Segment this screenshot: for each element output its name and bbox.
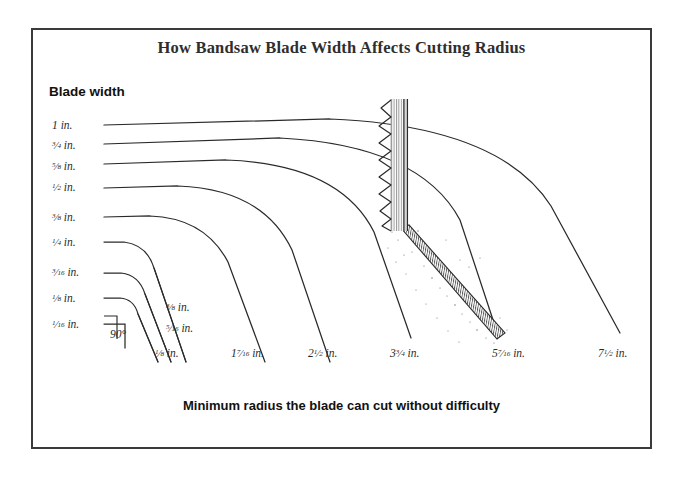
radius-label-5-16in: 5⁄16 in. (166, 322, 193, 334)
blade-label-5-8in: 5⁄8 in. (52, 160, 76, 172)
bandsaw-blade (379, 99, 408, 231)
radius-label-1-8in: 1⁄8 in. (155, 347, 179, 359)
radius-curve-3-4 (104, 138, 497, 332)
blade-teeth (379, 100, 391, 231)
blade-label-3-16in: 3⁄16 in. (52, 266, 79, 278)
radius-label-7-1-2in: 71⁄2 in. (598, 347, 627, 359)
blade-body (391, 99, 407, 231)
blade-label-1-8in: 1⁄8 in. (52, 292, 76, 304)
blade-label-1-16in: 1⁄16 in. (52, 318, 79, 330)
radius-label-3-8in: 3⁄8 in. (166, 301, 190, 313)
blade-label-1-2in: 1⁄2 in. (52, 181, 76, 193)
page-title: How Bandsaw Blade Width Affects Cutting … (31, 38, 652, 58)
radius-label-5-7-16in: 57⁄16 in. (492, 347, 525, 359)
saw-kerf (401, 225, 505, 339)
angle-90-label: 90° (110, 328, 126, 340)
blade-width-heading: Blade width (49, 84, 125, 99)
blade-label-3-8in: 3⁄8 in. (52, 211, 76, 223)
radius-label-2-1-2in: 21⁄2 in. (308, 347, 337, 359)
blade-label-1-4in: 1⁄4 in. (52, 236, 76, 248)
radius-curve-1-2 (104, 186, 330, 362)
blade-label-1in: 1 in. (52, 119, 72, 131)
radius-label-3-3-4in: 33⁄4 in. (390, 347, 419, 359)
blade-label-3-4in: 3⁄4 in. (52, 139, 76, 151)
radius-label-1-7-16in: 17⁄16 in. (231, 347, 264, 359)
figure-caption: Minimum radius the blade can cut without… (31, 398, 652, 413)
figure-root: How Bandsaw Blade Width Affects Cutting … (0, 0, 685, 479)
radius-curve-3-8 (104, 216, 265, 362)
